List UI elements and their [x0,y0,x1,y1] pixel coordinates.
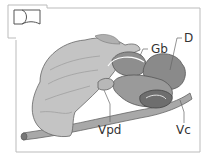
label-duodenum: D [184,32,193,44]
label-gallbladder: Gb [151,43,168,55]
label-vena-cava: Vc [176,124,191,136]
diagram-figure: Gb D Vpd Vc [0,0,210,160]
label-portal-vein: Vpd [98,124,121,136]
body-section-icon [14,10,40,24]
